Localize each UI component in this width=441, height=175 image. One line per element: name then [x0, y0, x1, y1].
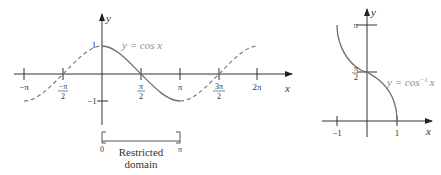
figure-canvas: −π −π 2 π 2 π 3π 2 2π 1 −1 x y y = cos x… — [0, 0, 441, 175]
restricted-label: Restricted — [119, 146, 164, 158]
tick-neg-half-pi-den: 2 — [61, 92, 65, 101]
bracket-label-zero: 0 — [100, 145, 104, 154]
tick-half-pi-num: π — [139, 82, 143, 91]
domain-label: domain — [125, 158, 158, 170]
arccos-curve-label: y = cos−1x — [386, 76, 435, 88]
tick-two-pi: 2π — [252, 82, 262, 92]
arccos-tick-pi: π — [353, 20, 358, 30]
arccos-graph: π π 2 −1 1 x y y = cos−1x — [322, 6, 435, 138]
tick-neg-one: −1 — [87, 96, 97, 106]
arccos-x-axis-label: x — [425, 125, 431, 137]
tick-neg-half-pi-num: −π — [59, 82, 68, 91]
tick-three-half-pi-den: 2 — [217, 92, 221, 101]
cos-y-axis-label: y — [105, 12, 111, 24]
tick-neg-pi: −π — [19, 82, 29, 92]
tick-one: 1 — [92, 40, 97, 50]
tick-pi: π — [178, 82, 183, 92]
arccos-tick-neg-one: −1 — [332, 128, 342, 138]
bracket-label-pi: π — [178, 145, 182, 154]
tick-three-half-pi-num: 3π — [215, 82, 223, 91]
restricted-domain-bracket — [102, 132, 180, 143]
tick-half-pi-den: 2 — [139, 92, 143, 101]
arccos-tick-half-pi-num: π — [354, 64, 358, 73]
arccos-tick-one: 1 — [395, 128, 400, 138]
arccos-y-axis-label: y — [370, 6, 376, 18]
cos-graph: −π −π 2 π 2 π 3π 2 2π 1 −1 x y y = cos x… — [14, 12, 292, 170]
cos-x-axis-label: x — [284, 82, 290, 94]
arccos-tick-half-pi-den: 2 — [354, 73, 358, 82]
cos-curve-label: y = cos x — [121, 39, 162, 51]
